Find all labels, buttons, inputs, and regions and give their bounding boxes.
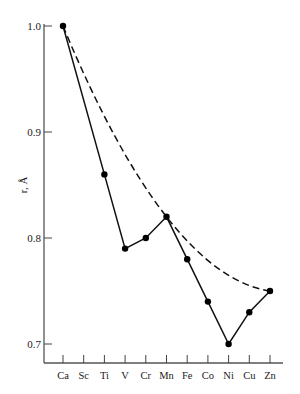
y-tick-label: 0.9 bbox=[27, 126, 41, 138]
x-tick-label: Sc bbox=[78, 370, 89, 381]
data-point bbox=[267, 288, 273, 294]
x-tick-label: Ti bbox=[100, 370, 109, 381]
x-tick-label: Co bbox=[202, 370, 214, 381]
data-point bbox=[122, 245, 128, 251]
ionic-radius-chart: 0.70.80.91.0r, ÅCaScTiVCrMnFeCoNiCuZn bbox=[0, 0, 300, 394]
data-point bbox=[163, 214, 169, 220]
x-tick-label: Cu bbox=[243, 370, 256, 381]
data-point bbox=[205, 298, 211, 304]
data-point bbox=[101, 171, 107, 177]
y-tick-label: 0.7 bbox=[27, 338, 41, 350]
x-tick-label: Ca bbox=[57, 370, 69, 381]
x-tick-label: Zn bbox=[264, 370, 276, 381]
data-point bbox=[225, 341, 231, 347]
y-tick-label: 1.0 bbox=[27, 20, 41, 32]
data-line bbox=[63, 26, 270, 344]
x-tick-label: V bbox=[121, 370, 129, 381]
data-point bbox=[60, 23, 66, 29]
data-point bbox=[184, 256, 190, 262]
data-point bbox=[143, 235, 149, 241]
data-point bbox=[246, 309, 252, 315]
x-tick-label: Mn bbox=[159, 370, 174, 381]
y-axis-label: r, Å bbox=[17, 177, 29, 194]
x-tick-label: Fe bbox=[182, 370, 193, 381]
y-tick-label: 0.8 bbox=[27, 232, 41, 244]
dashed-curve bbox=[63, 26, 270, 291]
x-tick-label: Cr bbox=[141, 370, 152, 381]
x-tick-label: Ni bbox=[223, 370, 234, 381]
